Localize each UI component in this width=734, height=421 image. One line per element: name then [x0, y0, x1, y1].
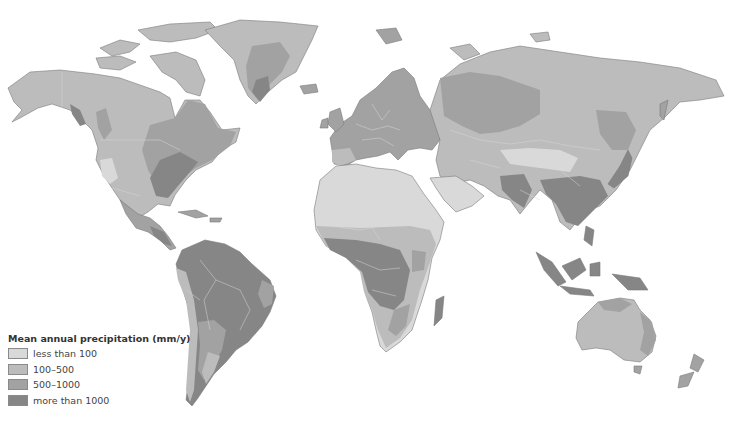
legend-label: more than 1000 — [33, 395, 109, 406]
south-america — [176, 240, 276, 406]
legend: Mean annual precipitation (mm/y) less th… — [8, 333, 190, 408]
swatch-100-500 — [8, 364, 28, 375]
legend-item-less-than-100: less than 100 — [8, 346, 190, 362]
legend-item-more-than-1000: more than 1000 — [8, 393, 190, 409]
greenland — [205, 20, 318, 104]
swatch-500-1000 — [8, 379, 28, 390]
north-america — [8, 22, 240, 250]
legend-label: less than 100 — [33, 348, 97, 359]
swatch-more-than-1000 — [8, 395, 28, 406]
southeast-asia-islands — [536, 226, 648, 296]
legend-item-100-500: 100–500 — [8, 362, 190, 378]
africa — [314, 164, 444, 352]
swatch-less-than-100 — [8, 348, 28, 359]
legend-label: 500–1000 — [33, 379, 80, 390]
legend-item-500-1000: 500–1000 — [8, 377, 190, 393]
europe — [320, 28, 440, 166]
legend-title: Mean annual precipitation (mm/y) — [8, 333, 190, 344]
legend-label: 100–500 — [33, 364, 74, 375]
australia — [576, 298, 704, 388]
asia — [430, 32, 724, 230]
